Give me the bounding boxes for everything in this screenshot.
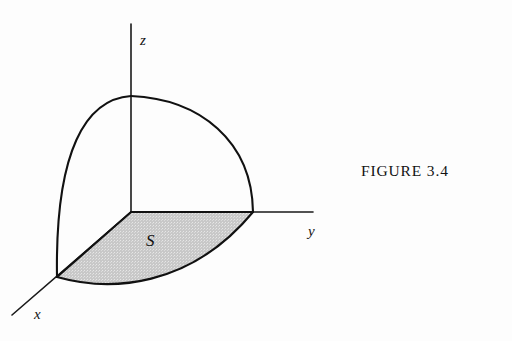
y-axis-label: y bbox=[306, 223, 315, 239]
z-axis-label: z bbox=[139, 32, 146, 48]
figure-caption: FIGURE 3.4 bbox=[361, 162, 449, 180]
shaded-region-texture bbox=[40, 200, 270, 300]
sphere-arc-right bbox=[131, 96, 253, 212]
region-label-s: S bbox=[146, 231, 155, 250]
x-axis-label: x bbox=[33, 306, 41, 322]
figure-container: z y x S FIGURE 3.4 bbox=[0, 0, 512, 341]
